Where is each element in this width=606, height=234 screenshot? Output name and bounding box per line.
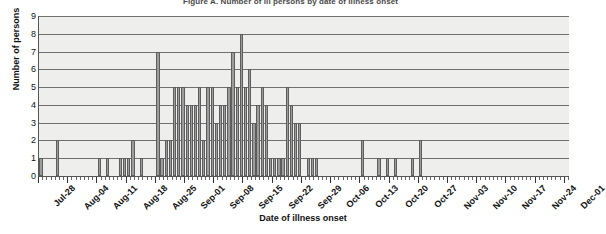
bar [286,87,289,176]
x-tick-label: Oct-13 [374,183,401,210]
bar [394,158,397,176]
x-tick-label: Nov-24 [549,183,577,211]
bar [219,105,222,176]
bar [248,69,251,176]
x-minor-tick [568,177,569,180]
bar [56,140,59,176]
bar [202,140,205,176]
x-tick-label: Aug-11 [111,183,139,211]
chart-title: Figure A. Number of ill persons by date … [0,0,581,7]
x-tick-label: Sep-08 [228,183,256,211]
bar [127,158,130,176]
bar [261,87,264,176]
bar [377,158,380,176]
bar [231,52,234,176]
x-tick-label: Sep-15 [257,183,285,211]
x-tick-label: Sep-22 [286,183,314,211]
bar [411,158,414,176]
bar [169,140,172,176]
bar [39,158,42,176]
x-tick-label: Sep-29 [316,183,344,211]
x-tick-label: Oct-27 [432,183,459,210]
x-tick-label: Sep-01 [199,183,227,211]
bar [194,105,197,176]
bar [198,87,201,176]
bar [265,105,268,176]
bar [186,105,189,176]
bar [98,158,101,176]
plot-area [38,16,569,177]
x-tick-label: Nov-10 [491,183,519,211]
bar [236,87,239,176]
x-axis-title: Date of illness onset [38,213,568,223]
bar [211,87,214,176]
bar [165,140,168,176]
x-tick-label: Jul-28 [52,183,77,208]
y-tick-label: 5 [18,83,36,91]
x-axis-tick-labels: Jul-28Aug-04Aug-11Aug-18Aug-25Sep-01Sep-… [38,183,568,217]
x-tick-label: Oct-20 [403,183,430,210]
bar [173,87,176,176]
bar [106,158,109,176]
bar [119,158,122,176]
y-tick-label: 6 [18,65,36,73]
bar [131,140,134,176]
bar [190,105,193,176]
y-axis-tick-labels: 0123456789 [18,16,36,176]
bar [181,87,184,176]
bar [281,158,284,176]
bar [223,105,226,176]
bar [244,87,247,176]
bar [252,123,255,176]
y-tick-label: 9 [18,12,36,20]
bar [294,123,297,176]
bar [206,87,209,176]
bar [215,123,218,176]
bar [315,158,318,176]
x-tick-label: Nov-17 [520,183,548,211]
y-tick-label: 2 [18,136,36,144]
y-tick-label: 7 [18,48,36,56]
y-tick-label: 4 [18,101,36,109]
bar [386,158,389,176]
bar [298,123,301,176]
y-tick-label: 3 [18,119,36,127]
bar [269,158,272,176]
bar [227,87,230,176]
y-tick-label: 0 [18,172,36,180]
x-tick-label: Aug-18 [141,183,170,212]
y-tick-label: 8 [18,30,36,38]
bar [160,158,163,176]
x-tick-label: Nov-03 [462,183,490,211]
x-tick-label: Oct-06 [344,183,371,210]
bar [177,87,180,176]
bar [419,140,422,176]
bar [156,52,159,176]
bar [140,158,143,176]
bar [311,158,314,176]
x-tick-label: Dec-01 [578,183,606,211]
bar [277,158,280,176]
bar [307,158,310,176]
bar [361,140,364,176]
bars-layer [39,16,569,176]
bar [290,105,293,176]
x-tick-label: Aug-25 [170,183,199,212]
x-tick-label: Aug-04 [82,183,111,212]
bar [273,158,276,176]
bar [256,105,259,176]
y-tick-label: 1 [18,154,36,162]
bar [123,158,126,176]
bar [240,34,243,176]
